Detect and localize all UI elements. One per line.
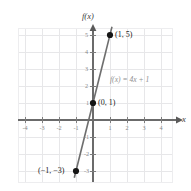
function-graph-figure: f(x) x -4 -3 -2 -1 1 2 3 4 5 4 3 2 1 -1 … xyxy=(0,0,191,191)
y-tick-label-4: 4 xyxy=(85,49,88,55)
point-label-neg1-neg3: (−1, −3) xyxy=(38,167,64,175)
data-point-neg1-neg3 xyxy=(73,168,79,174)
x-tick-label-1: 1 xyxy=(109,125,112,131)
x-axis-label: x xyxy=(182,115,186,124)
point-label-1-5: (1, 5) xyxy=(115,31,132,39)
y-tick-label-neg3: -3 xyxy=(84,168,89,174)
y-axis-label: f(x) xyxy=(82,12,94,21)
x-tick-label-neg4: -4 xyxy=(23,125,28,131)
y-tick-label-2: 2 xyxy=(85,83,88,89)
x-tick-label-neg3: -3 xyxy=(40,125,45,131)
y-tick-label-3: 3 xyxy=(85,66,88,72)
y-tick-label-1: 1 xyxy=(86,100,89,106)
point-label-0-1: (0, 1) xyxy=(98,99,115,107)
y-tick-label-neg2: -2 xyxy=(84,151,89,157)
data-point-1-5 xyxy=(107,32,113,38)
equation-annotation: f(x) = 4x + 1 xyxy=(110,76,149,84)
plot-canvas xyxy=(0,0,191,191)
x-tick-label-neg1: -1 xyxy=(74,125,79,131)
y-tick-label-5: 5 xyxy=(85,32,88,38)
x-tick-label-neg2: -2 xyxy=(57,125,62,131)
y-tick-label-neg1: -1 xyxy=(84,134,89,140)
x-tick-label-3: 3 xyxy=(143,125,146,131)
data-point-0-1 xyxy=(90,100,96,106)
x-tick-label-2: 2 xyxy=(126,125,129,131)
x-tick-label-4: 4 xyxy=(160,125,163,131)
